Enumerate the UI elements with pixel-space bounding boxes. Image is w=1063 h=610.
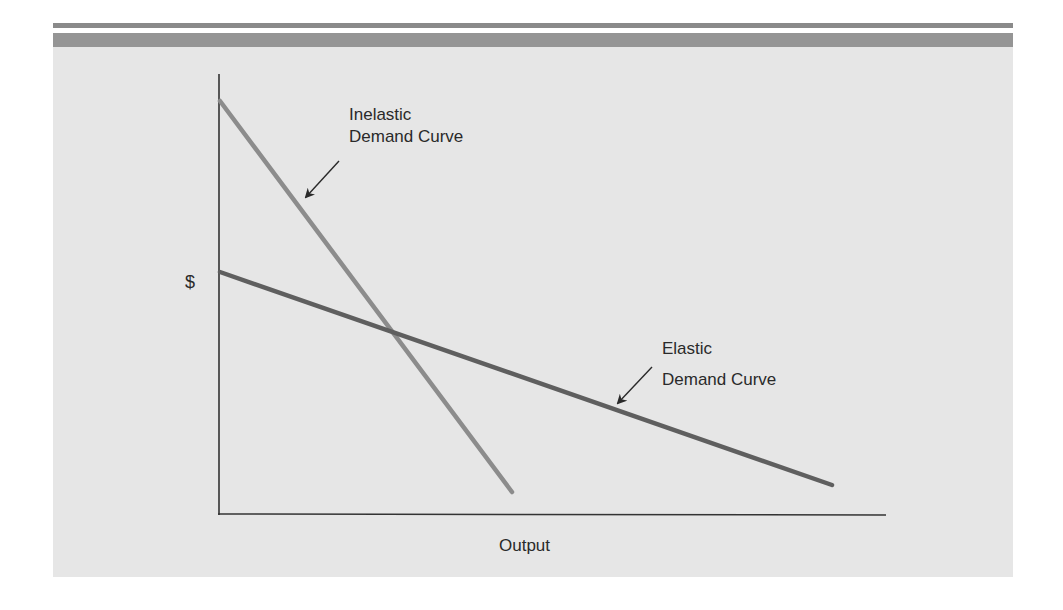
inelastic-demand-curve: [220, 101, 512, 492]
elastic-label-line2: Demand Curve: [662, 369, 776, 390]
elastic-arrow-icon: [618, 367, 652, 403]
y-axis-label: $: [185, 272, 195, 293]
inelastic-label-line2: Demand Curve: [349, 126, 463, 147]
chart-plot-area: [0, 0, 1063, 610]
x-axis: [218, 514, 886, 515]
inelastic-arrow-icon: [306, 161, 339, 197]
x-axis-label: Output: [499, 535, 550, 556]
inelastic-label-line1: Inelastic: [349, 104, 411, 125]
elastic-label-line1: Elastic: [662, 338, 712, 359]
